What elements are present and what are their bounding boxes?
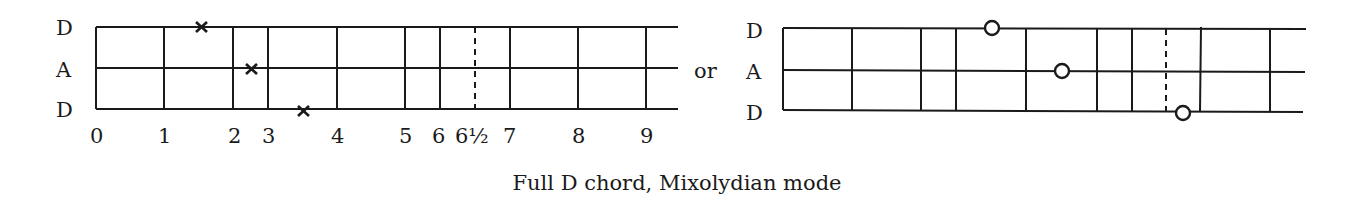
fret-label-4: 4	[331, 124, 344, 148]
right-string-label-d-top: D	[746, 19, 763, 43]
right-fretboard	[783, 27, 1306, 112]
string-a	[783, 70, 1305, 72]
fret-label-6-half: 6½	[455, 124, 489, 148]
fret-label-9: 9	[640, 124, 653, 148]
left-fretboard	[96, 27, 678, 109]
string-top-d	[783, 28, 1306, 29]
x-mark-icon	[298, 106, 309, 116]
left-string-label-d-bottom: D	[56, 98, 73, 122]
open-circle-icon	[1176, 106, 1190, 120]
left-string-label-a: A	[55, 58, 72, 82]
fret-label-5: 5	[399, 124, 412, 148]
fret-label-7: 7	[503, 124, 516, 148]
figure-caption: Full D chord, Mixolydian mode	[512, 171, 841, 195]
string-bottom-d	[783, 110, 1303, 112]
fret-label-0: 0	[90, 124, 103, 148]
fret-label-3: 3	[262, 124, 275, 148]
connector-or: or	[694, 59, 718, 83]
fret-label-8: 8	[572, 124, 585, 148]
fret-label-6: 6	[432, 124, 445, 148]
fret-label-2: 2	[228, 124, 241, 148]
chord-diagram-figure: D A D 0 1 2 3 4 5 6 6½ 7 8 9 or D A D	[0, 0, 1359, 203]
right-string-label-d-bottom: D	[746, 101, 763, 125]
right-string-label-a: A	[745, 60, 762, 84]
fret-label-1: 1	[158, 124, 171, 148]
fret-7	[1200, 27, 1201, 111]
open-circle-icon	[1055, 64, 1069, 78]
open-circle-icon	[985, 21, 999, 35]
left-string-label-d-top: D	[56, 16, 73, 40]
fret-number-labels: 0 1 2 3 4 5 6 6½ 7 8 9	[90, 124, 653, 148]
